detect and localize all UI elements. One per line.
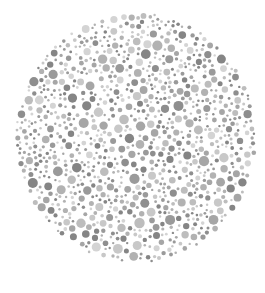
plate-dot <box>108 75 112 79</box>
plate-dot <box>232 74 239 81</box>
plate-dot <box>109 147 115 153</box>
plate-dot <box>79 196 85 202</box>
plate-dot <box>28 178 38 188</box>
plate-dot <box>149 61 152 64</box>
plate-dot <box>100 238 103 241</box>
plate-dot <box>242 108 245 111</box>
plate-dot <box>183 223 189 229</box>
plate-dot <box>199 32 202 35</box>
plate-dot <box>90 96 96 102</box>
plate-dot <box>72 220 75 223</box>
plate-dot <box>85 112 88 115</box>
plate-dot <box>72 85 75 88</box>
plate-dot <box>163 97 167 101</box>
plate-dot <box>183 246 188 251</box>
plate-dot <box>75 53 78 56</box>
plate-dot <box>103 131 106 134</box>
plate-dot <box>68 112 72 116</box>
plate-dot <box>200 227 203 230</box>
plate-dot <box>248 104 252 108</box>
plate-dot <box>204 151 209 156</box>
plate-dot <box>61 114 66 119</box>
plate-dot <box>191 234 198 241</box>
plate-dot <box>70 160 73 163</box>
plate-dot <box>133 229 135 231</box>
plate-dot <box>186 140 191 145</box>
plate-dot <box>63 48 66 51</box>
plate-dot <box>188 63 190 65</box>
plate-dot <box>205 117 208 120</box>
plate-dot <box>153 194 158 199</box>
plate-dot <box>95 31 98 34</box>
plate-dot <box>114 103 117 106</box>
plate-dot <box>104 248 106 250</box>
plate-dot <box>210 142 214 146</box>
plate-dot <box>167 101 170 104</box>
plate-dot <box>73 127 77 131</box>
plate-dot <box>245 160 251 166</box>
plate-dot <box>114 89 120 95</box>
plate-dot <box>45 79 50 84</box>
plate-dot <box>216 187 221 192</box>
plate-dot <box>243 125 246 128</box>
plate-dot <box>145 117 148 120</box>
plate-dot <box>155 97 158 100</box>
plate-dot <box>202 44 205 47</box>
plate-dot <box>181 97 185 101</box>
plate-dot <box>86 72 88 74</box>
plate-dot <box>73 142 75 144</box>
plate-dot <box>161 177 164 180</box>
plate-dot <box>148 94 153 99</box>
plate-dot <box>154 85 157 88</box>
plate-dot <box>33 137 35 139</box>
plate-dot <box>45 58 48 61</box>
plate-dot <box>222 86 228 92</box>
plate-dot <box>130 115 133 118</box>
plate-dot <box>130 24 135 29</box>
plate-dot <box>32 141 35 144</box>
plate-dot <box>44 75 47 78</box>
plate-dot <box>173 240 176 243</box>
plate-dot <box>223 76 226 79</box>
plate-dot <box>192 184 196 188</box>
plate-dot <box>112 171 115 174</box>
plate-dot <box>196 59 202 65</box>
plate-dot <box>48 191 53 196</box>
plate-dot <box>50 103 56 109</box>
plate-dot <box>126 201 129 204</box>
plate-dot <box>91 169 94 172</box>
plate-dot <box>95 143 101 149</box>
plate-dot <box>206 215 209 218</box>
plate-dot <box>205 81 212 88</box>
plate-dot <box>100 71 102 73</box>
plate-dot <box>141 30 145 34</box>
plate-dot <box>122 169 125 172</box>
plate-dot <box>58 89 61 92</box>
plate-dot <box>209 102 211 104</box>
plate-dot <box>34 162 39 167</box>
plate-dot <box>79 45 81 47</box>
plate-dot <box>173 74 176 77</box>
plate-dot <box>70 233 77 240</box>
plate-dot <box>97 176 100 179</box>
plate-dot <box>100 168 109 177</box>
plate-dot <box>143 238 147 242</box>
plate-dot <box>47 88 50 91</box>
plate-dot <box>208 132 215 139</box>
plate-dot <box>54 179 56 181</box>
plate-dot <box>181 187 188 194</box>
plate-dot <box>107 195 110 198</box>
plate-dot <box>77 175 79 177</box>
plate-dot <box>205 195 210 200</box>
plate-dot <box>143 192 149 198</box>
plate-dot <box>190 199 197 206</box>
plate-dot <box>113 206 118 211</box>
plate-dot <box>40 91 42 93</box>
plate-dot <box>67 117 71 121</box>
plate-dot <box>121 14 127 20</box>
plate-dot <box>122 56 125 59</box>
plate-dot <box>196 94 198 96</box>
plate-dot <box>156 101 159 104</box>
plate-dot <box>38 86 41 89</box>
plate-dot <box>247 98 249 100</box>
